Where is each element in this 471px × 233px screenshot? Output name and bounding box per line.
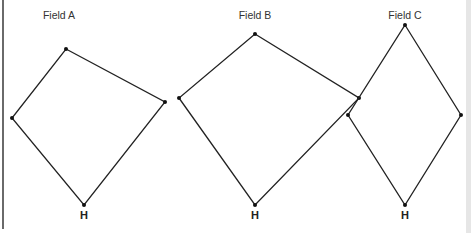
field-a-diamond: [12, 49, 165, 205]
top-base-dot: [403, 23, 407, 27]
right-base-dot: [459, 113, 463, 117]
top-base-dot: [253, 32, 257, 36]
field-c-home-label: H: [401, 209, 409, 221]
field-c-label: Field C: [388, 9, 422, 21]
field-c-base-dots: [346, 23, 463, 207]
left-base-dot: [346, 113, 350, 117]
fields-diagram: Field A H Field B H Field C H: [0, 0, 471, 233]
field-a-home-label: H: [80, 209, 88, 221]
left-base-dot: [10, 116, 14, 120]
field-b-home-label: H: [251, 209, 259, 221]
home-base-dot: [82, 203, 86, 207]
field-b-base-dots: [177, 32, 361, 207]
field-a-base-dots: [10, 47, 167, 207]
home-base-dot: [253, 203, 257, 207]
field-b: Field B H: [177, 9, 361, 221]
field-a-label: Field A: [43, 9, 75, 21]
field-b-label: Field B: [239, 9, 272, 21]
field-a: Field A H: [10, 9, 167, 221]
field-c-diamond: [348, 25, 461, 205]
left-base-dot: [177, 96, 181, 100]
home-base-dot: [403, 203, 407, 207]
top-base-dot: [64, 47, 68, 51]
field-b-diamond: [179, 34, 359, 205]
field-c: Field C H: [346, 9, 463, 221]
right-base-dot: [163, 100, 167, 104]
